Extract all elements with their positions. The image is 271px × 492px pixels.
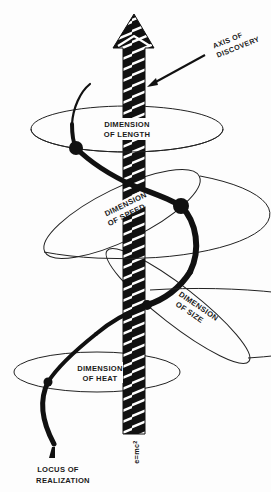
discovery-helix-diagram: AXIS OF DISCOVERY DIMENSION OF LENGTH DI…: [0, 0, 271, 492]
axis-of-discovery-label: AXIS OF DISCOVERY: [211, 25, 260, 60]
diagram-canvas: AXIS OF DISCOVERY DIMENSION OF LENGTH DI…: [0, 0, 271, 492]
svg-text:DIMENSION: DIMENSION: [104, 120, 150, 129]
equation-label: e=mc2: [132, 440, 141, 464]
svg-text:REALIZATION: REALIZATION: [36, 476, 90, 485]
heat-node: [44, 378, 53, 387]
axis-pointer: [147, 55, 205, 87]
ellipse-size-front: [150, 288, 271, 358]
svg-text:e=mc2: e=mc2: [132, 440, 141, 464]
ellipse-speed-front: [44, 176, 270, 259]
locus-of-realization-label: LOCUS OF REALIZATION: [36, 465, 90, 485]
dimension-heat-label: DIMENSION OF HEAT: [77, 364, 123, 383]
locus-pointer: [49, 447, 55, 458]
svg-text:OF LENGTH: OF LENGTH: [104, 130, 151, 139]
size-node: [142, 300, 152, 310]
dimension-length-label: DIMENSION OF LENGTH: [104, 120, 151, 139]
speed-node: [173, 198, 189, 214]
svg-text:OF HEAT: OF HEAT: [83, 374, 118, 383]
svg-text:DIMENSION: DIMENSION: [77, 364, 123, 373]
equation-base: e=mc: [132, 444, 141, 464]
svg-text:LOCUS OF: LOCUS OF: [37, 465, 79, 474]
length-node: [69, 141, 83, 155]
equation-exponent: 2: [132, 440, 138, 443]
